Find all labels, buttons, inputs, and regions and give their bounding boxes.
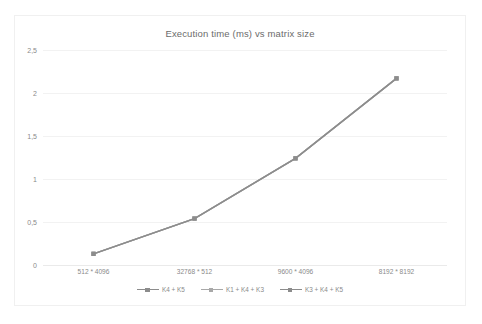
legend-entry[interactable]: K4 + K5 (137, 286, 185, 293)
x-tick-label: 32768 * 512 (177, 268, 213, 275)
series-line (94, 78, 397, 253)
legend-line-marker-icon (201, 286, 223, 293)
series-line (94, 78, 397, 253)
y-tick-label: 1,5 (27, 133, 37, 140)
legend-line-marker-icon (280, 286, 302, 293)
y-tick-label: 1 (33, 176, 37, 183)
legend-line-marker-icon (137, 286, 159, 293)
gridline (43, 265, 447, 266)
legend-label: K3 + K4 + K5 (305, 286, 343, 293)
data-point-marker (192, 216, 196, 220)
legend-label: K1 + K4 + K3 (226, 286, 264, 293)
series-line (94, 78, 397, 253)
y-tick-label: 0 (33, 262, 37, 269)
plot-area: 00,511,522,5 (43, 50, 447, 265)
data-point-marker (394, 76, 398, 80)
x-tick-label: 512 * 4096 (78, 268, 110, 275)
series-2 (91, 76, 398, 256)
legend-label: K4 + K5 (162, 286, 185, 293)
y-tick-label: 0,5 (27, 219, 37, 226)
y-tick-label: 2,5 (27, 47, 37, 54)
chart-frame: Execution time (ms) vs matrix size 00,51… (14, 15, 466, 306)
chart-legend: K4 + K5K1 + K4 + K3K3 + K4 + K5 (15, 286, 465, 293)
series-3 (91, 76, 398, 256)
data-point-marker (91, 252, 95, 256)
x-axis-labels: 512 * 409632768 * 5129600 * 40968192 * 8… (43, 268, 447, 282)
x-tick-label: 8192 * 8192 (379, 268, 415, 275)
series-layer (43, 50, 447, 265)
legend-entry[interactable]: K1 + K4 + K3 (201, 286, 264, 293)
x-tick-label: 9600 * 4096 (278, 268, 314, 275)
legend-entry[interactable]: K3 + K4 + K5 (280, 286, 343, 293)
y-tick-label: 2 (33, 90, 37, 97)
chart-title: Execution time (ms) vs matrix size (15, 28, 465, 39)
series-1 (91, 76, 398, 256)
data-point-marker (293, 156, 297, 160)
